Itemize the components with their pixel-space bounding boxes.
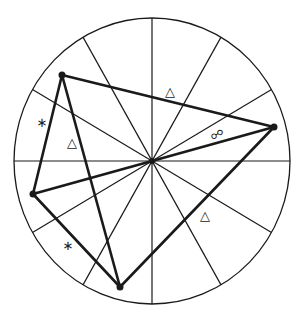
triangle-mark-lower-right: △ — [200, 209, 210, 222]
opposition-mark: ☍ — [210, 128, 223, 141]
asterisk-mark-lower-left: ∗ — [63, 239, 74, 252]
vertex-dot — [117, 284, 124, 291]
aspect-quadrilateral — [33, 75, 274, 287]
aspect-wheel-diagram — [0, 0, 305, 321]
vertex-dot — [59, 72, 66, 79]
vertex-dot — [271, 124, 278, 131]
vertex-dot — [30, 191, 37, 198]
center-dot — [149, 158, 155, 164]
asterisk-mark-upper-left: ∗ — [37, 116, 48, 129]
triangle-mark-left: △ — [67, 136, 77, 149]
triangle-mark-top: △ — [165, 85, 175, 98]
